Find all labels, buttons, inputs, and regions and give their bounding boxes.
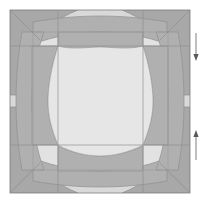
figure-root (0, 0, 210, 205)
geometric-panel-diagram (0, 0, 210, 205)
center-panel (48, 46, 153, 156)
